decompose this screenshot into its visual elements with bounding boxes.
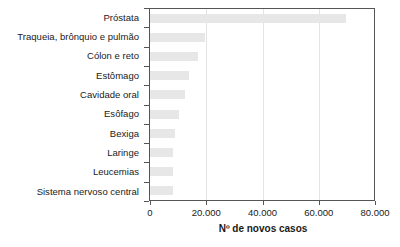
bar (150, 90, 185, 99)
y-axis-tick (144, 27, 149, 28)
y-axis-tick (144, 143, 149, 144)
x-axis-tick (263, 201, 264, 205)
bar-row (150, 124, 374, 143)
bar-row (150, 143, 374, 162)
x-axis-tick-label: 40.000 (248, 206, 277, 219)
y-axis-tick (144, 105, 149, 106)
bar (150, 52, 198, 61)
y-axis-tick (144, 8, 149, 9)
bar-row (150, 28, 374, 47)
bar-row (150, 104, 374, 123)
category-label: Cavidade oral (0, 85, 144, 104)
category-label: Próstata (0, 8, 144, 27)
bar (150, 129, 175, 138)
category-label: Sistema nervoso central (0, 182, 144, 201)
x-axis-tick-label: 20.000 (192, 206, 221, 219)
bar-row (150, 181, 374, 200)
y-axis-tick (144, 201, 149, 202)
category-label: Bexiga (0, 124, 144, 143)
x-axis-tick (319, 201, 320, 205)
plot-area (150, 8, 375, 201)
y-axis-tick (144, 47, 149, 48)
bar (150, 148, 173, 157)
x-axis-tick (150, 201, 151, 205)
bar-row (150, 47, 374, 66)
category-label: Estômago (0, 66, 144, 85)
x-axis-tick-label: 80.000 (360, 206, 389, 219)
bar-row (150, 85, 374, 104)
x-axis-tick (206, 201, 207, 205)
bar (150, 14, 346, 23)
x-axis-tick-label: 0 (147, 206, 152, 219)
bar (150, 33, 205, 42)
bar-series (150, 9, 374, 200)
x-axis-title: Nº de novos casos (150, 223, 376, 234)
bar-row (150, 66, 374, 85)
bar (150, 71, 189, 80)
bar-row (150, 9, 374, 28)
bar-row (150, 162, 374, 181)
y-axis-tick (144, 182, 149, 183)
bar-chart: PróstataTraqueia, brônquio e pulmãoCólon… (0, 0, 400, 247)
bar (150, 186, 173, 195)
x-axis-tick-labels: 020.00040.00060.00080.000 (150, 206, 376, 219)
y-axis-category-labels: PróstataTraqueia, brônquio e pulmãoCólon… (0, 8, 144, 201)
category-label: Leucemias (0, 162, 144, 181)
x-axis-tick (375, 201, 376, 205)
category-label: Esôfago (0, 104, 144, 123)
category-label: Traqueia, brônquio e pulmão (0, 27, 144, 46)
y-axis-tick (144, 85, 149, 86)
bar (150, 167, 173, 176)
y-axis-tick (144, 124, 149, 125)
bar (150, 110, 179, 119)
x-axis-tick-label: 60.000 (304, 206, 333, 219)
category-label: Cólon e reto (0, 47, 144, 66)
y-axis-tick (144, 162, 149, 163)
category-label: Laringe (0, 143, 144, 162)
y-axis-tick (144, 66, 149, 67)
